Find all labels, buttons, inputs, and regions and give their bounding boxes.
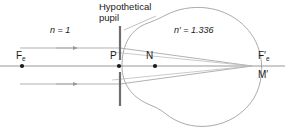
nodal-point-symbol: N <box>146 50 153 61</box>
hypothetical-pupil-label-line2: pupil <box>99 12 119 23</box>
rear-focal-point-label: F′e <box>258 50 270 61</box>
front-focal-point-marker <box>20 64 24 68</box>
pupil-point-marker <box>117 64 121 68</box>
object-space-index-label: n = 1 <box>50 25 70 35</box>
refracted-ray-upper <box>120 48 252 66</box>
image-point-label: M′ <box>258 69 268 80</box>
hypothetical-pupil-label: Hypothetical pupil <box>99 2 161 23</box>
image-space-index-text: n′ = 1.336 <box>174 25 213 35</box>
object-space-index-text: n = 1 <box>50 25 70 35</box>
front-focal-point-label: Fe <box>16 50 26 61</box>
nodal-point-label: N <box>146 50 153 61</box>
image-space-index-label: n′ = 1.336 <box>174 25 213 35</box>
pupil-point-label: P <box>110 50 117 61</box>
chief-ray-lower <box>112 66 252 80</box>
optical-diagram: Hypothetical pupil n = 1 n′ = 1.336 Fe P… <box>0 0 285 133</box>
rear-focal-point-subscript: e <box>266 55 270 62</box>
hypothetical-pupil-label-line1: Hypothetical <box>99 1 151 12</box>
pupil-point-symbol: P <box>110 50 117 61</box>
chief-ray-upper <box>112 52 252 66</box>
refracted-ray-lower <box>120 66 252 84</box>
image-point-symbol: M′ <box>258 69 268 80</box>
front-focal-point-subscript: e <box>22 55 26 62</box>
nodal-point-marker <box>153 64 157 68</box>
